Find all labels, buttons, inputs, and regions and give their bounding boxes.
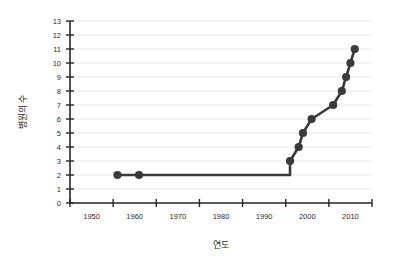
y-tick-label: 13: [53, 17, 61, 26]
data-point: [299, 129, 307, 137]
x-tick-label: 1960: [126, 212, 143, 221]
data-point: [342, 73, 350, 81]
x-tick-label: 2000: [299, 212, 316, 221]
y-tick-label: 8: [57, 87, 61, 96]
y-tick-label: 7: [57, 101, 61, 110]
y-tick-label: 1: [57, 185, 61, 194]
data-point: [113, 171, 121, 179]
data-point: [351, 45, 359, 53]
y-tick-label: 0: [57, 199, 61, 208]
y-tick-label: 4: [57, 143, 61, 152]
x-tick-label: 1970: [170, 212, 187, 221]
data-point: [295, 143, 303, 151]
data-point: [135, 171, 143, 179]
y-tick-label: 5: [57, 129, 61, 138]
chart-figure: 012345678910111213 195019601970198019902…: [0, 0, 397, 262]
data-point: [308, 115, 316, 123]
data-point: [346, 59, 354, 67]
y-tick-label: 9: [57, 73, 61, 82]
y-tick-label: 2: [57, 171, 61, 180]
x-tick-label: 2010: [342, 212, 359, 221]
line-chart-canvas: 012345678910111213 195019601970198019902…: [0, 0, 397, 262]
y-tick-label: 12: [53, 31, 61, 40]
x-axis-title: 연도: [213, 240, 229, 250]
x-tick-label: 1950: [83, 212, 100, 221]
x-tick-label: 1980: [213, 212, 230, 221]
y-tick-label: 3: [57, 157, 61, 166]
x-tick-label: 1990: [256, 212, 273, 221]
y-tick-label: 10: [53, 59, 61, 68]
data-point: [286, 157, 294, 165]
y-axis-title: 병원의 수: [18, 95, 28, 130]
data-point: [329, 101, 337, 109]
y-tick-label: 11: [53, 45, 61, 54]
data-point: [338, 87, 346, 95]
y-tick-label: 6: [57, 115, 61, 124]
